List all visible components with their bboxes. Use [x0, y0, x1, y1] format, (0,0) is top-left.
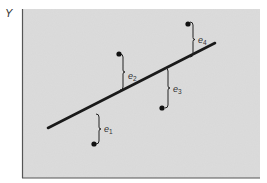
y-axis-label: Y	[5, 7, 13, 19]
plot-area	[22, 9, 260, 178]
data-point	[185, 21, 190, 26]
residuals-diagram: Y e1e2e3e4	[0, 0, 267, 183]
data-point	[91, 141, 96, 146]
plot-grain	[22, 9, 260, 178]
data-point	[159, 105, 164, 110]
data-point	[116, 51, 121, 56]
